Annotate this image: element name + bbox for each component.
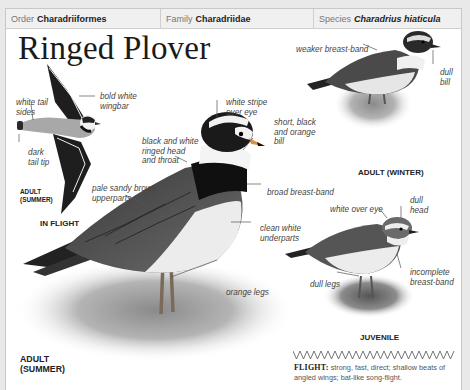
flight-label: FLIGHT: [294, 363, 329, 372]
label-incomplete-breast-band: incomplete breast-band [410, 268, 454, 287]
adult-summer-caption: ADULT (SUMMER) [20, 355, 65, 374]
label-dull-bill: dull bill [440, 68, 453, 87]
bird-illustrations [0, 0, 465, 382]
label-dark-tail-tip: dark tail tip [28, 148, 49, 167]
flight-description: FLIGHT: strong, fast, direct; shallow be… [294, 363, 454, 383]
label-dull-head: dull head [410, 196, 428, 215]
label-weaker-breast-band: weaker breast-band [296, 45, 368, 55]
label-broad-breast-band: broad breast-band [267, 188, 334, 198]
label-upperparts: pale sandy brown upperparts [92, 184, 156, 203]
label-dull-legs: dull legs [310, 280, 340, 290]
zigzag-flight-pattern-icon [293, 350, 455, 360]
label-bold-white-wingbar: bold white wingbar [100, 92, 137, 111]
label-bill: short, black and orange bill [274, 118, 316, 147]
in-flight-caption: IN FLIGHT [40, 219, 79, 229]
label-white-tail-sides: white tail sides [16, 98, 48, 117]
adult-winter-caption: ADULT (WINTER) [358, 168, 424, 178]
juvenile-bird [285, 217, 419, 318]
juvenile-caption: JUVENILE [360, 333, 399, 343]
in-flight-age-caption: ADULT (SUMMER) [20, 188, 53, 204]
label-white-over-eye: white over eye [330, 205, 383, 215]
label-orange-legs: orange legs [226, 288, 269, 298]
label-clean-white-underparts: clean white underparts [260, 224, 301, 243]
label-ringed-head: black and white ringed head and throat [142, 137, 198, 166]
label-white-stripe-over-eye: white stripe over eye [226, 98, 267, 117]
